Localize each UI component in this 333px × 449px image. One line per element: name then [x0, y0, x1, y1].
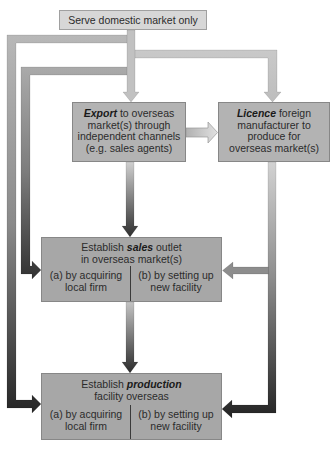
licence-title-rest: foreign: [276, 107, 311, 119]
export-line: (e.g. sales agents): [73, 143, 185, 155]
production-prefix: Establish: [81, 378, 127, 390]
export-keyword: Export: [84, 107, 117, 119]
sales-option-new-facility: (b) by setting up new facility: [130, 266, 221, 301]
arrow-sales-to-production: [122, 302, 138, 373]
sales-outlet-box: Establish sales outlet in overseas marke…: [41, 237, 222, 302]
sales-option-a-line: local firm: [42, 282, 130, 294]
arrow-export-to-sales: [122, 162, 138, 237]
sales-title-line: Establish sales outlet: [42, 242, 221, 254]
export-title-line: Export to overseas: [73, 108, 185, 120]
production-option-acquire: (a) by acquiring local firm: [42, 405, 130, 439]
export-title-rest: to overseas: [117, 107, 174, 119]
licence-box: Licence foreign manufacturer to produce …: [218, 102, 330, 162]
production-keyword: production: [127, 378, 182, 390]
licence-title-line: Licence foreign: [219, 108, 329, 120]
licence-line: overseas market(s): [219, 143, 329, 155]
domestic-market-label: Serve domestic market only: [60, 11, 206, 29]
sales-keyword: sales: [127, 241, 153, 253]
production-option-a-line: (a) by acquiring: [42, 409, 130, 421]
sales-suffix: outlet: [153, 241, 182, 253]
production-title-line: Establish production: [42, 379, 221, 391]
production-options: (a) by acquiring local firm (b) by setti…: [42, 405, 221, 439]
production-line-2: facility overseas: [42, 391, 221, 403]
sales-option-b-line: (b) by setting up: [131, 270, 221, 282]
sales-option-a-line: (a) by acquiring: [42, 270, 130, 282]
licence-keyword: Licence: [237, 107, 276, 119]
production-option-b-line: (b) by setting up: [131, 409, 221, 421]
production-facility-box: Establish production facility overseas (…: [41, 373, 222, 440]
sales-line-2: in overseas market(s): [42, 254, 221, 266]
arrow-licence-to-production: [222, 162, 276, 418]
production-option-b-line: new facility: [131, 421, 221, 433]
production-option-new-facility: (b) by setting up new facility: [130, 405, 221, 439]
sales-prefix: Establish: [81, 241, 127, 253]
sales-option-acquire: (a) by acquiring local firm: [42, 266, 130, 301]
sales-option-b-line: new facility: [131, 282, 221, 294]
domestic-market-box: Serve domestic market only: [59, 10, 207, 30]
arrow-licence-to-sales: [223, 262, 269, 279]
production-option-a-line: local firm: [42, 421, 130, 433]
export-box: Export to overseas market(s) through ind…: [72, 102, 186, 162]
arrow-domestic-to-licence: [131, 50, 281, 102]
arrow-export-to-licence: [186, 122, 218, 143]
sales-options: (a) by acquiring local firm (b) by setti…: [42, 266, 221, 301]
